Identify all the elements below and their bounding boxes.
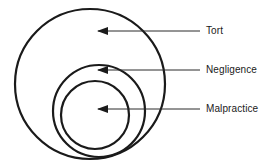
callout-malpractice bbox=[97, 105, 200, 113]
arrow-head-malpractice-icon bbox=[97, 105, 108, 113]
diagram-canvas bbox=[0, 0, 277, 166]
arrow-head-negligence-icon bbox=[97, 66, 108, 74]
circle-negligence bbox=[53, 65, 145, 157]
nested-circles-diagram: Tort Negligence Malpractice bbox=[0, 0, 277, 166]
label-malpractice: Malpractice bbox=[206, 103, 258, 114]
label-negligence: Negligence bbox=[206, 64, 257, 75]
label-tort: Tort bbox=[206, 25, 223, 36]
callout-tort bbox=[97, 27, 200, 35]
circle-malpractice bbox=[61, 81, 129, 149]
arrow-head-tort-icon bbox=[97, 27, 108, 35]
